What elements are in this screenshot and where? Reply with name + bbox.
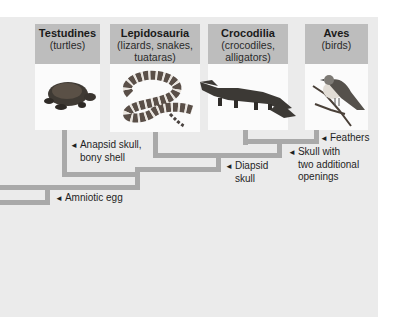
branch-diapsid-to-reptile — [135, 167, 221, 172]
branch-archosaur-stem — [277, 139, 282, 158]
taxon-aves: Aves (birds) — [305, 24, 368, 130]
trait-text: Skull with — [298, 146, 340, 157]
bird-icon — [305, 64, 368, 130]
trait-text: skull — [225, 173, 255, 184]
taxon-testudines: Testudines (turtles) — [35, 24, 100, 130]
trait-text: two additional — [288, 159, 359, 170]
taxon-header: Crocodilia (crocodiles, alligators) — [208, 24, 288, 64]
turtle-icon — [35, 64, 100, 130]
taxon-name: Crocodilia — [208, 27, 288, 39]
taxon-common-name: (crocodiles, — [208, 39, 288, 51]
snake-icon — [110, 64, 200, 132]
trait-text: Amniotic egg — [65, 192, 123, 203]
taxon-name: Aves — [305, 27, 368, 39]
trait-skull-openings: ◄Skull with two additional openings — [288, 146, 359, 183]
taxon-common-name: (birds) — [305, 39, 368, 51]
trait-text: openings — [288, 171, 339, 182]
taxon-common-name: (lizards, snakes, — [110, 39, 200, 51]
marker-arrow-icon: ◄ — [70, 141, 78, 150]
taxon-image — [305, 64, 368, 130]
taxon-header: Lepidosauria (lizards, snakes, tuataras) — [110, 24, 200, 64]
taxon-common-name: (turtles) — [35, 39, 100, 51]
branch-amniote-top — [0, 185, 140, 190]
taxon-common-name: tuataras) — [110, 51, 200, 63]
branch-bird — [314, 130, 319, 144]
marker-arrow-icon: ◄ — [225, 162, 233, 171]
taxon-header: Testudines (turtles) — [35, 24, 100, 64]
trait-text: Feathers — [330, 132, 369, 143]
trait-feathers: ◄Feathers — [320, 132, 369, 145]
marker-arrow-icon: ◄ — [288, 148, 296, 157]
taxon-crocodilia: Crocodilia (crocodiles, alligators) — [208, 24, 288, 130]
trait-diapsid: ◄Diapsid skull — [225, 160, 268, 185]
taxon-header: Aves (birds) — [305, 24, 368, 64]
taxon-image — [208, 64, 288, 130]
trait-text: Anapsid skull, — [80, 139, 142, 150]
alligator-icon — [198, 64, 298, 130]
taxon-image — [35, 64, 100, 130]
trait-text: bony shell — [70, 152, 125, 163]
marker-arrow-icon: ◄ — [55, 194, 63, 203]
branch-turtle — [62, 130, 67, 177]
branch-reptile-join — [62, 172, 140, 177]
taxon-name: Testudines — [35, 27, 100, 39]
trait-amniotic-egg: ◄Amniotic egg — [55, 192, 123, 205]
taxon-common-name: alligators) — [208, 51, 288, 63]
branch-amniote-bottom — [0, 200, 50, 205]
taxon-image — [110, 64, 200, 132]
marker-arrow-icon: ◄ — [320, 134, 328, 143]
trait-anapsid: ◄Anapsid skull, bony shell — [70, 139, 142, 164]
taxon-lepidosauria: Lepidosauria (lizards, snakes, tuataras) — [110, 24, 200, 132]
trait-text: Diapsid — [235, 160, 268, 171]
taxon-name: Lepidosauria — [110, 27, 200, 39]
